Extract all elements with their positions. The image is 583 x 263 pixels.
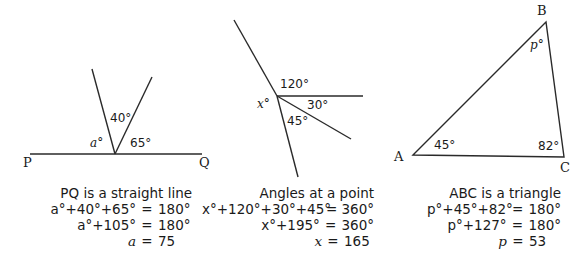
angle-label-82: 82°: [538, 140, 559, 152]
caption-title: PQ is a straight line: [50, 185, 192, 201]
equation-equals: =: [320, 217, 342, 233]
equation-equals: =: [136, 233, 158, 249]
equation-row: x = 165: [202, 233, 374, 249]
equation-row: p°+127° = 180°: [427, 217, 561, 233]
equation-row: x°+195° = 360°: [202, 217, 374, 233]
equation-lhs: x: [202, 233, 322, 249]
point-label-p: P: [23, 157, 32, 169]
equation-lhs: x°+195°: [202, 217, 320, 233]
equation-lhs: a: [50, 233, 136, 249]
caption-angles-at-point: Angles at a point x°+120°+30°+45° = 360°…: [202, 185, 374, 249]
equation-lhs: a°+40°+65°: [50, 201, 136, 217]
equation-equals: =: [507, 233, 529, 249]
caption-title: Angles at a point: [202, 185, 374, 201]
caption-title: ABC is a triangle: [427, 185, 561, 201]
equation-equals: =: [322, 233, 344, 249]
equation-equals: =: [507, 201, 528, 217]
point-label-a: A: [394, 151, 403, 163]
equation-rhs: 180°: [528, 217, 561, 233]
equation-equals: =: [322, 201, 341, 217]
equation-equals: =: [507, 217, 529, 233]
equation-lhs: p°+127°: [427, 217, 507, 233]
angle-label-65: 65°: [130, 137, 151, 149]
caption-triangle: ABC is a triangle p°+45°+82° = 180° p°+1…: [427, 185, 561, 249]
equation-rhs: 75: [158, 233, 175, 249]
equation-rhs: 180°: [158, 201, 191, 217]
angle-label-120: 120°: [280, 78, 309, 90]
equation-row: x°+120°+30°+45° = 360°: [202, 201, 374, 217]
equation-rhs: 165: [344, 233, 370, 249]
angle-label-45: 45°: [287, 115, 308, 127]
equation-lhs: p°+45°+82°: [427, 201, 507, 217]
equation-rhs: 180°: [158, 217, 191, 233]
angle-label-x: x°: [257, 98, 270, 110]
equation-lhs: p: [427, 233, 507, 249]
equation-rhs: 180°: [528, 201, 561, 217]
angles-at-point-figure: [234, 20, 363, 177]
caption-straight-line: PQ is a straight line a°+40°+65° = 180° …: [50, 185, 192, 249]
equation-row: a = 75: [50, 233, 192, 249]
point-label-c: C: [560, 162, 570, 174]
equation-row: a°+40°+65° = 180°: [50, 201, 192, 217]
equation-rhs: 360°: [341, 201, 374, 217]
point-label-q: Q: [199, 157, 210, 169]
angle-label-p: p°: [530, 39, 544, 51]
point-label-b: B: [537, 5, 547, 17]
ray-lower: [277, 96, 298, 177]
equation-equals: =: [136, 217, 158, 233]
equation-row: a°+105° = 180°: [50, 217, 192, 233]
equation-row: p = 53: [427, 233, 561, 249]
equation-rhs: 360°: [341, 217, 374, 233]
angle-label-45-triangle: 45°: [434, 139, 455, 151]
angle-label-40: 40°: [110, 112, 131, 124]
ray-upper-left: [234, 20, 277, 96]
equation-lhs: a°+105°: [50, 217, 136, 233]
equation-row: p°+45°+82° = 180°: [427, 201, 561, 217]
equation-rhs: 53: [529, 233, 546, 249]
angle-label-30: 30°: [307, 99, 328, 111]
angle-label-a: a°: [90, 137, 103, 149]
equation-equals: =: [136, 201, 158, 217]
equation-lhs: x°+120°+30°+45°: [202, 201, 322, 217]
